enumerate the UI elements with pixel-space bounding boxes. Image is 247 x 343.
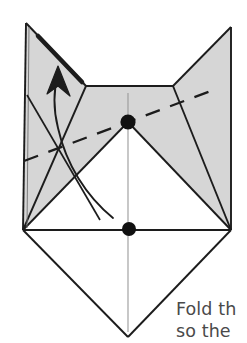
paper-shaded-regions [23,23,231,337]
reference-point-upper [120,114,135,129]
caption-line-1: Fold th [176,298,247,320]
caption-line-2: so the [176,320,247,342]
reference-point-lower [122,222,136,236]
origami-diagram-svg [0,0,247,343]
origami-figure: Fold th so the [0,0,247,343]
instruction-caption: Fold th so the [176,298,247,342]
